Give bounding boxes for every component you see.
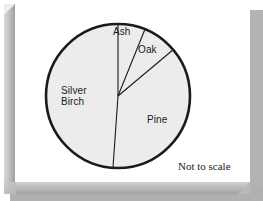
pie-chart-figure: Ash Oak Pine SilverBirch Not to scale [0,0,263,201]
slice-label-ash: Ash [113,26,131,37]
slice-label-pine: Pine [147,114,167,125]
slice-label-silver-birch-line2: Birch [61,96,84,107]
slice-label-oak: Oak [138,44,157,55]
slice-label-silver-birch-line1: Silver [61,85,87,96]
not-to-scale-note: Not to scale [178,160,231,172]
slice-label-silver-birch: SilverBirch [61,85,87,107]
